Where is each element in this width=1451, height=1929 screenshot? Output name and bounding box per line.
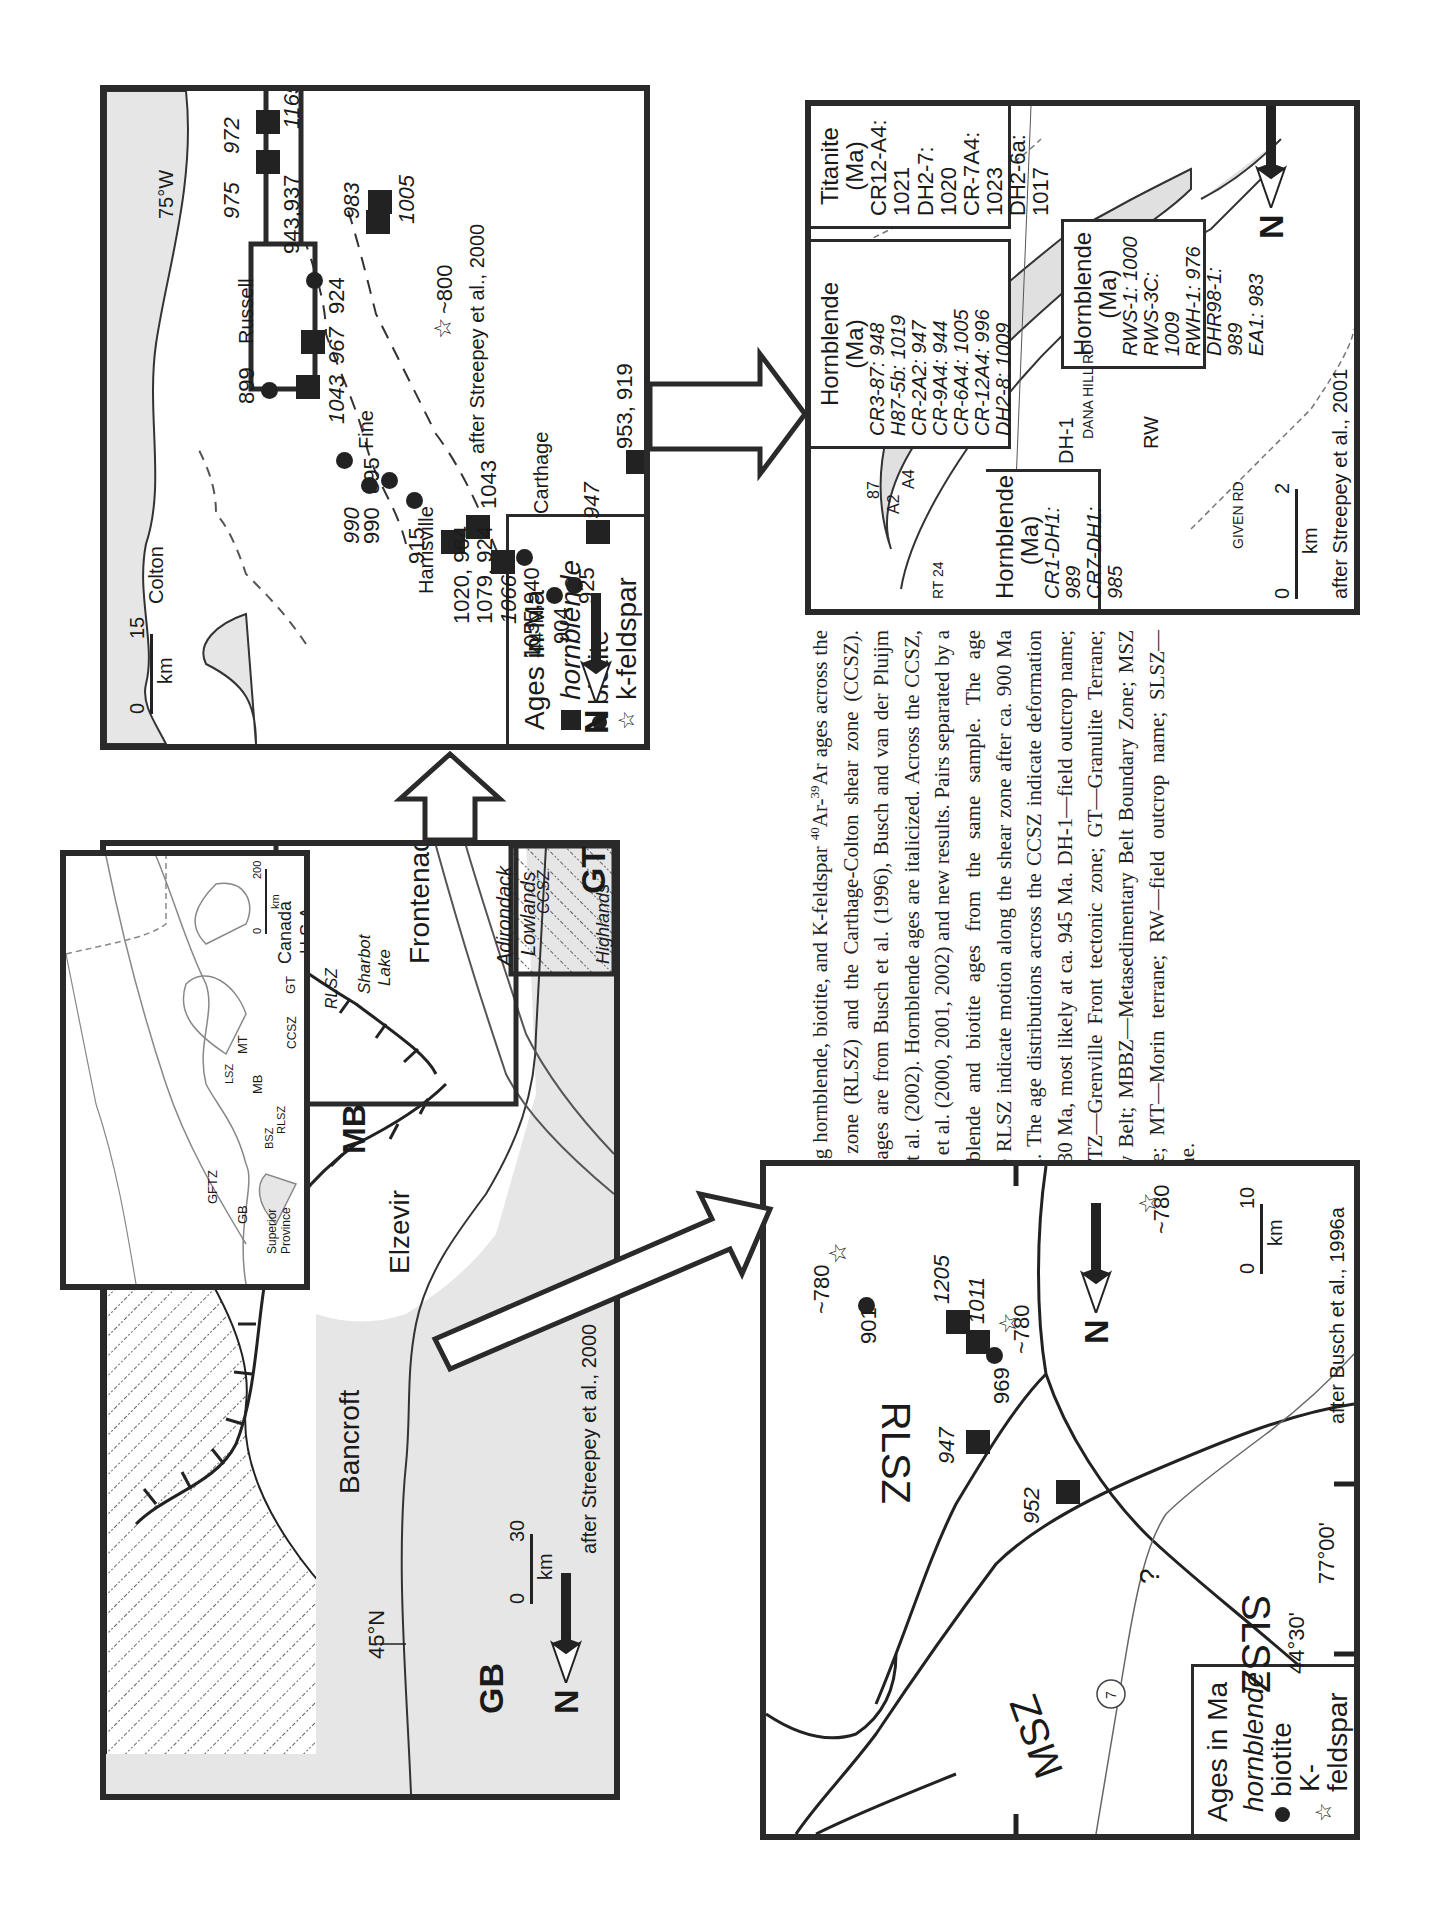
age-label: 1043 xyxy=(478,460,500,509)
age-label: 975 xyxy=(221,182,243,219)
gb-inset-label: GB xyxy=(236,1205,249,1224)
russell-label: Russell xyxy=(236,278,256,344)
lsz-inset-label: LSZ xyxy=(224,1064,235,1084)
sample-marker-star: ☆ xyxy=(431,317,455,339)
sample-marker-square xyxy=(586,520,610,544)
age-label: 924 xyxy=(326,277,348,314)
sample-marker-circle xyxy=(306,272,323,289)
age-label: 1205 xyxy=(931,1255,953,1304)
ccsz-inset-label: CCSZ xyxy=(286,1016,298,1049)
age-label: 915 xyxy=(406,527,428,564)
sample-marker-star: ☆ xyxy=(826,1242,850,1264)
legend-kfeldspar: ☆K-feldspar xyxy=(1296,1679,1352,1822)
sharbot-label: Sharbot xyxy=(356,934,373,994)
dana-hill-rd-label: DANA HILL RD xyxy=(1081,344,1095,439)
north-arrow-icon xyxy=(546,1573,586,1683)
sample-marker-square xyxy=(1056,1480,1080,1504)
inset-map: Superior Province GFTZ GB BSZ RLSZ MB LS… xyxy=(60,850,310,1290)
star-symbol-icon: ☆ xyxy=(1313,1802,1335,1822)
ccsz-credit: after Streepey et al., 2000 xyxy=(466,224,489,454)
gt-inset-label: GT xyxy=(284,976,297,994)
age-label: 901 xyxy=(858,1307,880,1344)
site-a2-label: A2 xyxy=(886,494,902,514)
age-label: 1043 xyxy=(326,375,348,424)
mb-label: MB xyxy=(338,1104,370,1154)
north-arrow-regional: N xyxy=(546,1573,586,1714)
legend-kfeldspar: ☆k-feldspar xyxy=(613,531,641,730)
circle-symbol-icon xyxy=(1275,1807,1290,1822)
dh1-scale-bar: 0 2 km xyxy=(1271,479,1331,599)
north-arrow-sharbot: N xyxy=(1076,1203,1116,1344)
figure-page: GB MB BSZ MBBZ RLSZ Elzevir Bancroft Fro… xyxy=(0,0,1451,1929)
highlands-label: Highlands xyxy=(594,884,612,964)
rlsz-label: RLSZ xyxy=(324,968,340,1009)
age-label: 967 xyxy=(326,327,348,364)
sample-marker-square xyxy=(368,190,392,214)
age-label: ~780 xyxy=(1151,1184,1173,1234)
sample-marker-circle xyxy=(516,549,533,566)
sample-marker-circle xyxy=(261,382,278,399)
arrow-to-dh1-map xyxy=(650,354,805,474)
gb-label: GB xyxy=(474,1663,508,1714)
age-label: 1066 xyxy=(498,575,520,624)
uncertain-label: ? xyxy=(1136,1568,1164,1584)
titanite-title: Titanite (Ma) xyxy=(817,116,867,216)
age-label: 1011 xyxy=(966,1277,988,1324)
north-arrow-icon xyxy=(1251,100,1291,208)
route-7-label: 7 xyxy=(1104,1691,1118,1699)
mt-inset-label: MT xyxy=(236,1035,249,1054)
usa-label: U.S.A xyxy=(298,907,310,954)
age-label: 947 xyxy=(581,482,603,519)
age-label: ~780 xyxy=(1011,1304,1033,1354)
age-label: ~780 xyxy=(811,1264,833,1314)
gftz-inset-label: GFTZ xyxy=(206,1170,219,1204)
titanite-box: Titanite (Ma) CR12-A4: 1021 DH2-7: 1020 … xyxy=(811,106,1011,229)
age-label: 952 xyxy=(1021,1487,1043,1524)
superior-label: Superior xyxy=(266,1209,278,1254)
age-label: 1079, 924 xyxy=(474,526,496,624)
lon-label: 77°00' xyxy=(1316,1522,1338,1584)
age-label: 990 xyxy=(361,507,383,544)
sample-marker-circle xyxy=(381,472,398,489)
age-label: 1165 xyxy=(281,85,303,129)
ccsz-label-regional: CCSZ xyxy=(536,870,552,914)
north-arrow-icon xyxy=(1076,1203,1116,1313)
carthage-label: Carthage xyxy=(531,432,551,514)
province-label: Province xyxy=(280,1207,292,1254)
elzevir-label: Elzevir xyxy=(386,1190,414,1274)
rlsz-inset-label: RLSZ xyxy=(276,1106,287,1134)
sharbot-map: Ages in Ma hornblende biotite ☆K-feldspa… xyxy=(760,1160,1360,1840)
regional-credit: after Streepey et al., 2000 xyxy=(578,1324,601,1554)
age-label: 947 xyxy=(936,1427,958,1464)
age-label: 899 xyxy=(236,367,258,404)
sample-marker-square xyxy=(256,150,280,174)
sample-marker-circle xyxy=(406,492,423,509)
sample-marker-square xyxy=(966,1430,990,1454)
frontenac-label: Frontenac xyxy=(406,840,434,964)
legend-biotite: biotite xyxy=(1268,1679,1296,1822)
hornblende-box-b: Hornblende (Ma) CR1-DH1: 989 CR7-DH1: 98… xyxy=(986,469,1101,609)
rlsz-zone-label: RLSZ xyxy=(876,1402,916,1504)
age-label: 1005 xyxy=(396,175,418,224)
adirondack-label: Adirondack xyxy=(494,866,514,966)
bancroft-label: Bancroft xyxy=(336,1390,364,1494)
dh1-map: Titanite (Ma) CR12-A4: 1021 DH2-7: 1020 … xyxy=(805,100,1360,615)
age-label: 972 xyxy=(221,117,243,154)
age-label: 1055,940 xyxy=(521,567,543,659)
given-rd-label: GIVEN RD xyxy=(1231,481,1245,549)
site-87-label: 87 xyxy=(866,481,882,499)
sample-marker-circle xyxy=(336,452,353,469)
colton-label: Colton xyxy=(146,546,166,604)
mb-inset-label: MB xyxy=(251,1075,264,1095)
age-label: 904 xyxy=(551,607,573,644)
legend-hornblende: hornblende xyxy=(1240,1679,1268,1822)
sharbot-scale-bar: 0 10 km xyxy=(1236,1184,1296,1274)
age-label: 983 xyxy=(341,182,363,219)
hornblende-box-a: Hornblende (Ma) CR3-87: 948 H87-5b: 1019… xyxy=(811,239,1011,449)
ccsz-map: Ages in Ma hornblende biotite ☆k-feldspa… xyxy=(100,85,650,750)
sample-marker-square xyxy=(626,450,650,474)
north-arrow-icon xyxy=(576,593,616,703)
sample-marker-square xyxy=(296,375,320,399)
lat-label: 44°30' xyxy=(1286,1612,1308,1674)
sample-marker-square xyxy=(301,330,325,354)
